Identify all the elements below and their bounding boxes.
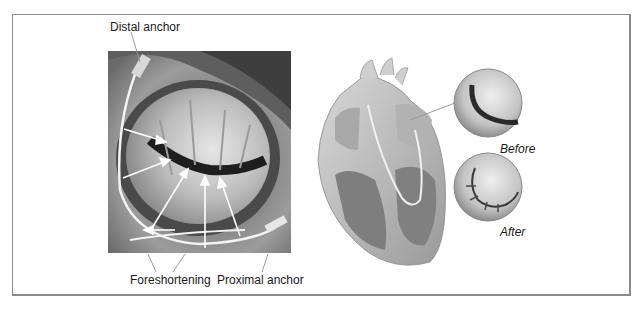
label-foreshortening: Foreshortening <box>130 273 211 287</box>
inset-after-circle <box>454 153 522 221</box>
label-distal-anchor: Distal anchor <box>110 20 180 34</box>
mitral-leaflets <box>126 88 270 224</box>
inset-before <box>454 69 522 137</box>
label-after: After <box>500 225 525 239</box>
heart-illustration <box>318 58 455 265</box>
label-before: Before <box>500 142 535 156</box>
inset-after <box>454 153 522 221</box>
inset-before-circle <box>454 69 522 137</box>
figure-artwork <box>0 0 640 309</box>
annulus-photo <box>108 51 291 253</box>
label-proximal-anchor: Proximal anchor <box>217 273 304 287</box>
